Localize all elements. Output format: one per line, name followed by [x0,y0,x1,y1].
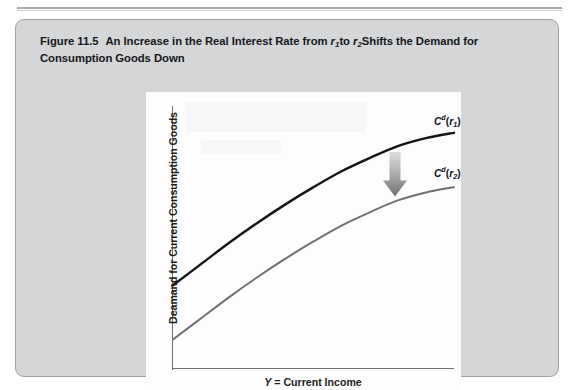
curve-label-cd-r2: Cd(r2) [434,166,461,179]
page-top-rule-secondary [17,10,562,11]
curve2-superscript: d [441,165,445,174]
downward-shift-arrow [383,152,407,196]
curve2-subscript: 2 [453,172,457,181]
demand-curves [146,92,461,390]
caption-subscript-2: 2 [357,40,361,49]
curve1-superscript: d [441,113,445,122]
figure-caption-text: An Increase in the Real Interest Rate fr… [40,35,478,64]
curve-label-cd-r1: Cd(r1) [434,114,461,127]
figure-number: Figure 11.5 [40,35,98,47]
curve1-subscript: 1 [453,120,457,129]
chart-plot-area: Deamand for Current Consumption Goods Y … [146,92,461,390]
caption-subscript-1: 1 [335,40,339,49]
curve-cd-r1 [173,133,454,285]
figure-caption: Figure 11.5An Increase in the Real Inter… [40,34,540,66]
curve-cd-r2 [173,187,454,339]
page-top-rule [17,7,562,9]
caption-segment-mid: to [339,35,353,47]
figure-panel: Figure 11.5An Increase in the Real Inter… [15,19,559,377]
caption-segment-1: An Increase in the Real Interest Rate fr… [105,35,330,47]
